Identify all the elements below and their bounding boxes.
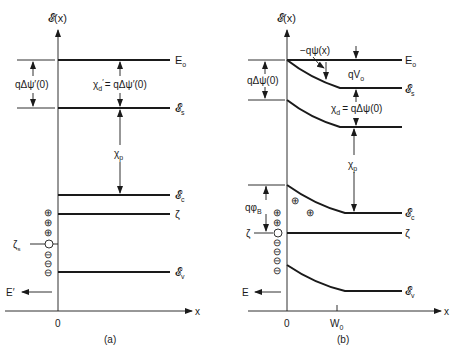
chi-d-label-b: χd= qΔψ(0) [331,103,382,116]
charge-plus: ⊕ [273,217,281,228]
label-conduction-a: 𝓔c [175,189,185,203]
caption-b: (b) [337,334,349,345]
panel-b: 𝓔(x) x 0 W0 Eo 𝓔s 𝓔c ζ 𝓔v qΔψ(0) −qψ(x) … [242,12,449,345]
y-axis-label-b: 𝓔(x) [277,12,296,24]
bulk-charge-plus: ⊕ [306,207,314,218]
conduction-band-b [287,185,402,213]
chi-p-label-b: χp [348,159,357,173]
potential-pointer [313,57,324,68]
y-axis-label-a: 𝓔(x) [48,12,67,24]
charge-plus: ⊕ [44,227,52,238]
surface-level-b [287,60,402,88]
charge-minus: ⊖ [44,267,52,278]
label-vacuum-b: Eo [405,54,416,68]
label-surface-b: 𝓔s [405,83,415,97]
dipole-label-b: qΔψ(0) [247,75,279,86]
depletion-label: W0 [330,318,343,331]
x-axis-label-a: x [195,306,200,317]
field-label-a: E′ [6,287,15,298]
dipole-label-a: qΔψ′(0) [15,79,48,90]
x-axis-label-b: x [444,306,449,317]
label-fermi-b: ζ [405,227,410,239]
barrier-label: qφB [245,202,262,215]
valence-band-b [287,265,402,291]
potential-label: −qψ(x) [300,45,330,56]
charge-minus: ⊖ [273,265,281,276]
label-vacuum-a: Eo [175,54,186,68]
surface-state-circle [45,240,53,248]
fermi-left-label-b: ζ [246,228,251,240]
built-in-label: qVo [348,69,364,82]
panel-a: 𝓔(x) x 0 Eo 𝓔s 𝓔c ζ 𝓔v qΔψ′(0) χd′= qΔψ′… [5,12,200,345]
label-fermi-a: ζ [175,208,180,220]
label-valence-a: 𝓔v [175,266,185,280]
chi-p-label-a: χp [114,148,123,162]
field-label-b: E [242,287,249,298]
surface-charges-b: ⊕ ⊕ ⊖ ⊖ ⊖ ⊖ ⊕ ⊕ [273,195,314,276]
label-conduction-b: 𝓔c [405,207,415,221]
caption-a: (a) [104,334,116,345]
chi-d-label-a: χd′= qΔψ′(0) [93,77,147,92]
label-surface-a: 𝓔s [175,102,185,116]
origin-label-b: 0 [284,318,290,329]
surface-state-circle-b [274,229,282,237]
surface-charges-a: ⊕ ⊕ ⊕ ⊖ ⊖ ⊖ [44,207,53,278]
band-diagram-figure: 𝓔(x) x 0 Eo 𝓔s 𝓔c ζ 𝓔v qΔψ′(0) χd′= qΔψ′… [0,0,454,351]
label-valence-b: 𝓔v [405,285,415,299]
origin-label-a: 0 [55,318,61,329]
bulk-charge-plus: ⊕ [291,195,299,206]
surface-state-label-a: ζs [13,239,20,252]
